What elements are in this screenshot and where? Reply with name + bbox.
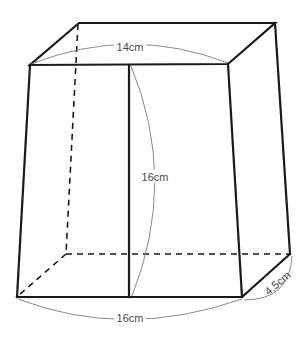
prism-svg: 14cm 16cm 16cm 4.5cm <box>0 0 307 345</box>
depth-label: 4.5cm <box>262 269 293 297</box>
dimension-labels: 14cm 16cm 16cm 4.5cm <box>114 40 293 325</box>
prism-diagram: 14cm 16cm 16cm 4.5cm <box>0 0 307 345</box>
hidden-bottom-left-depth <box>18 254 66 296</box>
front-right-edge <box>228 64 242 297</box>
hidden-back-left-vertical <box>66 24 78 254</box>
top-width-label: 14cm <box>117 41 144 53</box>
back-right-edge <box>275 23 290 254</box>
bottom-width-label: 16cm <box>117 312 144 324</box>
top-face <box>30 23 275 65</box>
height-label: 16cm <box>142 171 169 183</box>
front-left-edge <box>17 65 30 297</box>
